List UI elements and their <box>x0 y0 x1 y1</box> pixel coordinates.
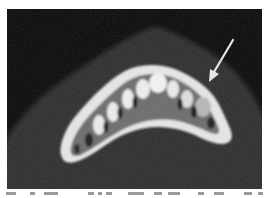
figure-caption-cropped <box>4 191 266 198</box>
scan-grain <box>7 9 262 189</box>
ct-scan-image <box>7 9 262 189</box>
